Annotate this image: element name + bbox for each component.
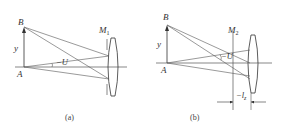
ray	[24, 27, 109, 56]
caption-a: (a)	[65, 113, 74, 122]
point-a-label: A	[16, 69, 23, 79]
point-a-label: A	[160, 65, 167, 75]
ray	[24, 67, 109, 79]
height-label: y	[13, 43, 18, 53]
ray	[24, 27, 109, 79]
angle-arc	[52, 63, 53, 67]
height-label: y	[156, 39, 161, 49]
point-b-label: B	[18, 17, 24, 27]
optical-diagram: B A y −U M1 (a) B A y −U M2 −lz	[0, 0, 285, 133]
panel-b: B A y −U M2 −lz (b)	[156, 12, 272, 122]
point-b-label: B	[163, 12, 169, 22]
caption-b: (b)	[190, 113, 200, 122]
angle-label: −U	[221, 51, 234, 61]
lens-shape	[248, 35, 258, 93]
distance-label: −lz	[236, 90, 247, 101]
stop-label: M2	[227, 25, 239, 36]
ray	[167, 63, 250, 76]
angle-label: −U	[56, 57, 69, 67]
panel-a: B A y −U M1 (a)	[13, 17, 127, 122]
stop-label: M1	[98, 25, 110, 36]
